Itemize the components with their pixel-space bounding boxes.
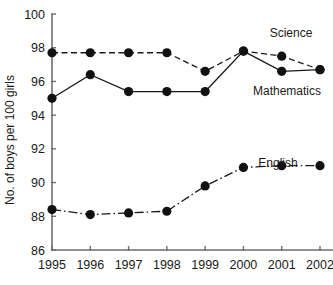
data-point <box>86 48 95 57</box>
series-layer <box>47 46 324 219</box>
data-point <box>47 48 56 57</box>
data-point <box>162 207 171 216</box>
x-axis-tick-label: 1998 <box>153 258 181 272</box>
x-axis-tick-label: 1995 <box>38 258 66 272</box>
x-axis-tick-label: 1997 <box>115 258 143 272</box>
x-axis-tick-label: 2002 <box>306 258 333 272</box>
data-point <box>239 163 248 172</box>
line-chart: 86889092949698100 1995199619971998199920… <box>0 0 333 285</box>
series-path <box>52 166 320 215</box>
data-point <box>201 87 210 96</box>
series-label-english: English <box>258 156 297 170</box>
y-axis-tick-label: 88 <box>31 210 45 224</box>
y-axis-tick-label: 86 <box>31 244 45 258</box>
chart-canvas: 86889092949698100 1995199619971998199920… <box>0 0 333 285</box>
series-label-mathematics: Mathematics <box>253 84 321 98</box>
data-point <box>201 181 210 190</box>
x-axis-tick-label: 2000 <box>230 258 258 272</box>
series-annotation-layer: ScienceMathematicsEnglish <box>253 26 321 170</box>
data-point <box>315 65 324 74</box>
x-axis-tick-label: 2001 <box>268 258 296 272</box>
y-axis-title: No. of boys per 100 girls <box>3 75 17 205</box>
data-point <box>277 52 286 61</box>
x-axis-tick-label: 1999 <box>191 258 219 272</box>
data-point <box>162 48 171 57</box>
data-point <box>124 208 133 217</box>
data-point <box>86 210 95 219</box>
data-point <box>86 70 95 79</box>
x-axis-tick-label: 1996 <box>76 258 104 272</box>
series-label-science: Science <box>270 26 313 40</box>
y-axis-tick-label: 100 <box>24 8 45 22</box>
y-axis-tick-label: 92 <box>31 142 45 156</box>
data-point <box>315 161 324 170</box>
data-point <box>277 67 286 76</box>
data-point <box>201 67 210 76</box>
y-axis-tick-label: 98 <box>31 41 45 55</box>
data-point <box>124 48 133 57</box>
data-point <box>239 46 248 55</box>
data-point <box>47 205 56 214</box>
y-axis-tick-label: 90 <box>31 176 45 190</box>
y-axis-tick-label: 94 <box>31 109 45 123</box>
data-point <box>124 87 133 96</box>
data-point <box>47 94 56 103</box>
data-point <box>162 87 171 96</box>
y-axis-tick-label: 96 <box>31 75 45 89</box>
